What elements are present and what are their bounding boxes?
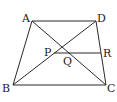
- label-P: P: [44, 46, 52, 59]
- segment-AB: [13, 21, 32, 85]
- label-C: C: [107, 82, 115, 95]
- label-R: R: [103, 47, 112, 60]
- label-Q: Q: [63, 55, 72, 68]
- label-A: A: [21, 12, 31, 25]
- label-D: D: [97, 12, 106, 25]
- trapezoid-diagram: A D B C P Q R: [0, 0, 117, 102]
- label-B: B: [2, 82, 10, 95]
